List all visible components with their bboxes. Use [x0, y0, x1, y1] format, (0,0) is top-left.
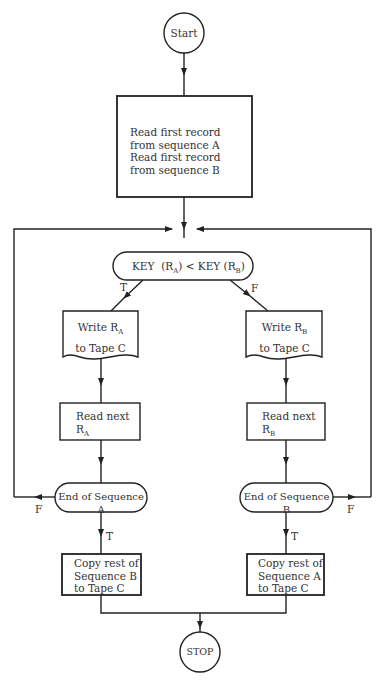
- start-label: Start: [164, 27, 204, 40]
- copy-b-line3: to Tape C: [74, 582, 139, 595]
- branch-true-label: T: [120, 281, 127, 293]
- decision-key-a: KEY: [132, 260, 154, 272]
- end-b-label: End of Sequence B: [240, 491, 333, 516]
- copy-b-line1: Copy rest of: [74, 557, 139, 570]
- end-a-true-label: T: [106, 530, 113, 542]
- end-a-label: End of Sequence A: [55, 491, 147, 516]
- read-b-sub: B: [270, 430, 275, 438]
- branch-false-label: F: [251, 282, 258, 294]
- decision-key-b: KEY: [198, 260, 220, 272]
- copy-a-line3: to Tape C: [258, 582, 323, 595]
- decision-ra-sub: A: [173, 267, 178, 275]
- write-b-sub: B: [302, 328, 307, 336]
- decision-op: <: [186, 260, 195, 272]
- copy-a-line1: Copy rest of: [258, 557, 323, 570]
- copy-a-line2: Sequence A: [258, 570, 323, 583]
- read-a-text: Read next RA: [76, 410, 130, 440]
- read-a-sub: A: [84, 430, 89, 438]
- read-b-text: Read next RB: [262, 410, 316, 440]
- init-line-1: Read first record: [130, 126, 250, 139]
- init-box-text: Read first record from sequence A Read f…: [130, 126, 250, 176]
- write-a-line2: to Tape C: [63, 342, 138, 355]
- end-a-false-label: F: [35, 503, 42, 515]
- stop-label: STOP: [180, 646, 220, 659]
- write-a-line1: Write R: [78, 321, 118, 333]
- read-b-line2: R: [262, 423, 270, 435]
- init-line-2: from sequence A: [130, 139, 250, 152]
- write-b-text: Write RB to Tape C: [247, 321, 322, 354]
- decision-rb-sub: B: [236, 267, 241, 275]
- write-b-line1: Write R: [262, 321, 302, 333]
- copy-a-text: Copy rest of Sequence A to Tape C: [258, 557, 323, 595]
- end-b-false-label: F: [347, 503, 354, 515]
- decision-ra: R: [165, 260, 173, 272]
- write-a-sub: A: [118, 328, 123, 336]
- end-b-true-label: T: [291, 530, 298, 542]
- decision-rb: R: [228, 260, 236, 272]
- decision-condition: KEY (RA) < KEY (RB): [132, 260, 245, 277]
- flowchart-lines: [0, 0, 385, 687]
- write-a-text: Write RA to Tape C: [63, 321, 138, 354]
- read-a-line2: R: [76, 423, 84, 435]
- read-a-line1: Read next: [76, 410, 130, 423]
- write-b-line2: to Tape C: [247, 342, 322, 355]
- copy-b-text: Copy rest of Sequence B to Tape C: [74, 557, 139, 595]
- read-b-line1: Read next: [262, 410, 316, 423]
- init-line-4: from sequence B: [130, 164, 250, 177]
- init-line-3: Read first record: [130, 151, 250, 164]
- copy-b-line2: Sequence B: [74, 570, 139, 583]
